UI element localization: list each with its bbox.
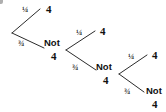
node-value-stage2: 4 bbox=[103, 75, 109, 86]
probability-label-stage2-up: ¼ bbox=[76, 28, 82, 37]
probability-label-stage1-up: ¼ bbox=[22, 5, 28, 14]
node-label-not-stage1: Not bbox=[44, 38, 60, 48]
outcome-value-stage1-up: 4 bbox=[46, 4, 52, 15]
outcome-value-stage3-up: 4 bbox=[152, 50, 158, 61]
branch-line-stage1-down bbox=[12, 33, 44, 48]
probability-label-stage2-down: ¾ bbox=[72, 63, 78, 72]
branch-line-stage2-down bbox=[66, 50, 96, 70]
node-label-not-stage2: Not bbox=[96, 62, 112, 72]
node-value-stage1: 4 bbox=[51, 51, 57, 62]
probability-tree-figure: ¼ 4 ¾ Not 4 ¼ 4 ¾ Not 4 ¼ 4 ¾ Not 4 bbox=[0, 0, 166, 112]
probability-label-stage3-up: ¼ bbox=[128, 52, 134, 61]
node-value-stage3: 4 bbox=[152, 99, 158, 110]
node-label-not-stage3: Not bbox=[146, 86, 162, 96]
branch-line-stage3-down bbox=[119, 74, 144, 92]
outcome-value-stage2-up: 4 bbox=[100, 26, 106, 37]
probability-label-stage1-down: ¾ bbox=[18, 39, 24, 48]
probability-label-stage3-down: ¾ bbox=[124, 87, 130, 96]
tree-branch-lines bbox=[0, 0, 166, 112]
